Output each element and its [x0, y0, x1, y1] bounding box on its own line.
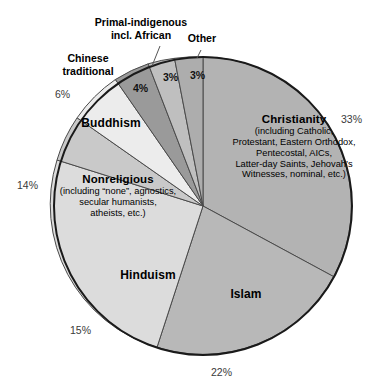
label-hinduism-name: Hinduism [120, 268, 175, 282]
label-chinese-traditional-line2: traditional [40, 65, 136, 78]
pie-chart: Christianity (including Catholic, Protes… [0, 0, 392, 386]
label-chinese-traditional-line1: Chinese [40, 52, 136, 65]
pct-nonreligious: 14% [17, 179, 38, 191]
label-chinese-traditional: Chinese traditional [40, 52, 136, 77]
label-islam: Islam [216, 288, 276, 302]
pct-buddhism: 6% [55, 88, 70, 100]
label-nonreligious-name: Nonreligious [48, 173, 188, 186]
label-christianity-detail-5: Witnesses, nominal, etc.) [218, 169, 370, 180]
label-buddhism: Buddhism [68, 117, 154, 131]
label-other: Other [176, 32, 228, 45]
pct-other: 3% [190, 69, 205, 81]
pct-primal-indigenous: 3% [163, 71, 178, 83]
label-nonreligious-detail-1: (including “none”, agnostics, [48, 186, 188, 197]
label-nonreligious: Nonreligious (including “none”, agnostic… [48, 173, 188, 219]
label-nonreligious-detail-3: atheists, etc.) [48, 208, 188, 219]
label-islam-name: Islam [230, 287, 261, 301]
pct-hinduism: 15% [70, 324, 91, 336]
label-christianity-detail-3: Pentecostal, AICs, [218, 148, 370, 159]
pct-chinese-traditional: 4% [133, 82, 148, 94]
label-other-name: Other [188, 32, 216, 44]
label-nonreligious-detail-2: secular humanists, [48, 197, 188, 208]
label-christianity-detail-4: Latter-day Saints, Jehovah’s [218, 159, 370, 170]
pct-christianity: 33% [341, 113, 362, 125]
label-hinduism: Hinduism [108, 269, 188, 283]
label-primal-indigenous-line1: Primal-indigenous [76, 16, 206, 29]
label-christianity-detail-1: (including Catholic, [218, 126, 370, 137]
label-christianity-detail-2: Protestant, Eastern Orthodox, [218, 137, 370, 148]
label-buddhism-name: Buddhism [81, 116, 140, 130]
pct-islam: 22% [211, 366, 232, 378]
